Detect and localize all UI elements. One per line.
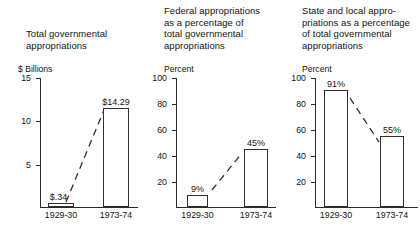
category-label: 1929-30 <box>45 210 77 220</box>
y-axis-tick-label: 60 <box>296 126 306 135</box>
bar-1929-30: $.34 1929-30 <box>48 203 74 207</box>
category-label: 1929-30 <box>181 210 213 220</box>
panel-title: Total governmental appropriations <box>26 28 142 51</box>
bar-value-label: 55% <box>383 125 401 135</box>
y-axis-tick-label: 20 <box>157 178 167 187</box>
y-axis-unit-label: Percent <box>302 64 332 74</box>
bar-value-label: 9% <box>191 184 204 194</box>
y-axis-tick-label: 80 <box>157 100 167 109</box>
panel-title: State and local appro- priations as a pe… <box>302 5 420 51</box>
chart-panel-state-local-share: State and local appro- priations as a pe… <box>275 0 420 236</box>
plot-area: 100 80 60 40 20 9% 1929-30 <box>176 78 276 208</box>
bar-1929-30: 91% 1929-30 <box>324 90 348 207</box>
category-label: 1973-74 <box>240 210 272 220</box>
y-axis-unit-label: Percent <box>164 64 194 74</box>
category-label: 1973-74 <box>100 210 132 220</box>
three-panel-bar-chart-figure: Total governmental appropriations $ Bill… <box>0 0 420 236</box>
bar-value-label: 91% <box>327 79 345 89</box>
y-axis-tick-label: 10 <box>21 117 31 126</box>
y-axis-tick-label: 15 <box>21 74 31 83</box>
bar-value-label: $.34 <box>50 192 68 202</box>
plot-area: 100 80 60 40 20 91% 1929-30 <box>315 78 418 208</box>
y-axis-tick-label: 60 <box>157 126 167 135</box>
y-axis-tick-label: 20 <box>296 178 306 187</box>
y-axis-tick-label: 40 <box>296 152 306 161</box>
bar-1973-74: 55% 1973-74 <box>380 136 404 207</box>
y-axis-tick-label: 100 <box>291 74 306 83</box>
y-axis-tick-label: 5 <box>26 161 31 170</box>
category-label: 1973-74 <box>376 210 408 220</box>
bar-1929-30: 9% 1929-30 <box>187 195 208 207</box>
chart-panel-federal-share: Federal appropriations as a percentage o… <box>138 0 280 236</box>
panel-title: Federal appropriations as a percentage o… <box>164 5 282 51</box>
bar-1973-74: 45% 1973-74 <box>244 149 268 207</box>
plot-area: 15 10 5 $.34 1929-30 $14.29 1973-74 <box>40 78 138 208</box>
y-axis-tick-label: 80 <box>296 100 306 109</box>
bar-value-label: 45% <box>247 138 265 148</box>
chart-panel-total-appropriations: Total governmental appropriations $ Bill… <box>0 0 140 236</box>
bar-value-label: $14.29 <box>102 97 130 107</box>
bar-1973-74: $14.29 1973-74 <box>103 108 129 207</box>
category-label: 1929-30 <box>320 210 352 220</box>
y-axis-tick-label: 100 <box>152 74 167 83</box>
y-axis-tick-label: 40 <box>157 152 167 161</box>
